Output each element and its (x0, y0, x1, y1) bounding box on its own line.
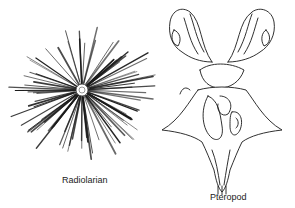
pteropod-illustration (160, 0, 295, 195)
radiolarian-spines-icon (0, 0, 160, 175)
pteropod-label: Pteropod (210, 192, 247, 202)
radiolarian-label: Radiolarian (62, 175, 108, 185)
radiolarian-illustration (0, 0, 160, 175)
pteropod-body-icon (160, 0, 295, 195)
